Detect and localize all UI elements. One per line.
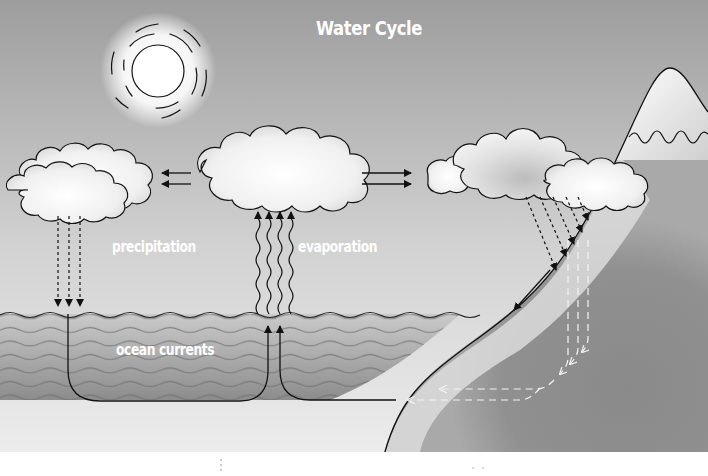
evaporation-label: evaporation (298, 238, 377, 256)
diagram-canvas (0, 0, 708, 452)
divider-dots-right (471, 466, 485, 470)
divider-dots (220, 458, 222, 472)
diagram-title: Water Cycle (316, 16, 422, 40)
ocean-currents-label: ocean currents (116, 341, 214, 359)
water-cycle-diagram: Water Cycle precipitation evaporation oc… (0, 0, 708, 452)
sun-icon (100, 12, 216, 128)
precipitation-label: precipitation (112, 238, 196, 256)
